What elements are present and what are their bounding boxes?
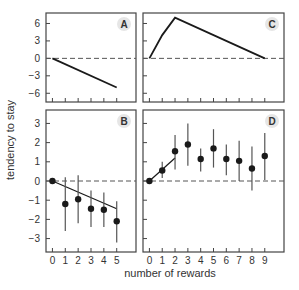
y-tick-label: −1 — [29, 195, 41, 206]
y-tick-label: −6 — [29, 88, 41, 99]
data-point — [88, 206, 94, 212]
x-tick-label: 3 — [88, 255, 94, 266]
model-line — [52, 58, 116, 87]
panel-c: C — [143, 13, 284, 102]
y-tick-label: 1 — [34, 156, 40, 167]
x-axis-label: number of rewards — [124, 267, 216, 279]
data-point — [114, 218, 120, 224]
x-tick-label: 8 — [249, 255, 255, 266]
x-tick-label: 5 — [211, 255, 217, 266]
panel-letter: A — [120, 19, 127, 30]
data-point — [262, 153, 268, 159]
data-point — [249, 165, 255, 171]
y-tick-label: 0 — [34, 53, 40, 64]
x-tick-label: 0 — [50, 255, 56, 266]
panel-b: −3−2−10123012345B — [29, 110, 136, 266]
x-tick-label: 4 — [101, 255, 107, 266]
fit-line — [52, 181, 116, 209]
panel-letter: D — [268, 116, 275, 127]
data-point — [185, 141, 191, 147]
y-tick-label: 0 — [34, 176, 40, 187]
data-point — [197, 156, 203, 162]
x-tick-label: 4 — [198, 255, 204, 266]
x-tick-label: 0 — [147, 255, 153, 266]
y-tick-label: −3 — [29, 70, 41, 81]
x-tick-label: 2 — [172, 255, 178, 266]
y-axis-label: tendency to stay — [4, 99, 16, 180]
panel-d: 0123456789D — [143, 110, 284, 266]
x-tick-label: 6 — [224, 255, 230, 266]
panel-letter: C — [268, 19, 275, 30]
y-tick-label: 6 — [34, 18, 40, 29]
y-tick-label: 3 — [34, 118, 40, 129]
data-point — [210, 145, 216, 151]
x-tick-label: 7 — [236, 255, 242, 266]
panel-a: −6−3036A — [29, 13, 136, 102]
y-tick-label: −3 — [29, 233, 41, 244]
x-tick-label: 2 — [75, 255, 81, 266]
x-tick-label: 3 — [185, 255, 191, 266]
data-point — [146, 178, 152, 184]
data-point — [75, 196, 81, 202]
data-point — [159, 167, 165, 173]
data-point — [62, 201, 68, 207]
data-point — [101, 207, 107, 213]
panels: −6−3036AC−3−2−10123012345B0123456789D — [29, 13, 284, 266]
x-tick-label: 1 — [63, 255, 69, 266]
x-tick-label: 9 — [262, 255, 268, 266]
data-point — [49, 178, 55, 184]
y-tick-label: −2 — [29, 214, 41, 225]
y-tick-label: 2 — [34, 137, 40, 148]
data-point — [223, 156, 229, 162]
figure: −6−3036AC−3−2−10123012345B0123456789D te… — [0, 0, 299, 290]
data-point — [172, 148, 178, 154]
x-tick-label: 1 — [159, 255, 165, 266]
panel-letter: B — [120, 116, 127, 127]
model-line — [149, 18, 264, 59]
data-point — [236, 158, 242, 164]
x-tick-label: 5 — [114, 255, 120, 266]
y-tick-label: 3 — [34, 35, 40, 46]
